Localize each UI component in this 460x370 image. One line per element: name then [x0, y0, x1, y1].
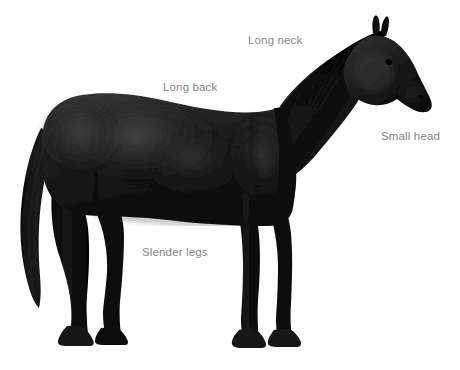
horse-cheek-highlight	[354, 52, 394, 92]
horse-muzzle-highlight	[402, 84, 426, 104]
annotated-horse-figure: Long neck Long back Small head Slender l…	[0, 0, 460, 370]
horse-rump-highlight	[40, 102, 120, 178]
annotation-slender-legs: Slender legs	[142, 247, 208, 259]
annotation-long-back: Long back	[163, 82, 217, 94]
horse-illustration	[0, 0, 460, 370]
annotation-long-neck: Long neck	[248, 35, 302, 47]
annotation-small-head: Small head	[381, 131, 440, 143]
horse-flank-highlight	[152, 136, 248, 204]
